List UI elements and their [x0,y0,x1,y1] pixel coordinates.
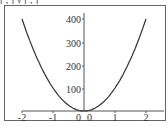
y-ticks: 100 200 300 400 0 [66,14,84,123]
y-tick-label: 200 [66,61,81,72]
x-tick-label: 1 [113,112,118,123]
y-tick-label: 0 [76,112,81,123]
x-ticks: -2 -1 0 1 2 [18,111,149,123]
y-tick-label: 100 [66,84,81,95]
x-tick-label: 2 [144,112,149,123]
y-tick-label: 300 [66,38,81,49]
x-tick-label: -2 [18,112,26,123]
x-tick-label: 0 [87,112,92,123]
x-tick-label: -1 [49,112,57,123]
y-tick-label: 400 [66,14,81,25]
chart-plot: 100 200 300 400 0 -2 -1 0 1 2 [0,0,168,126]
